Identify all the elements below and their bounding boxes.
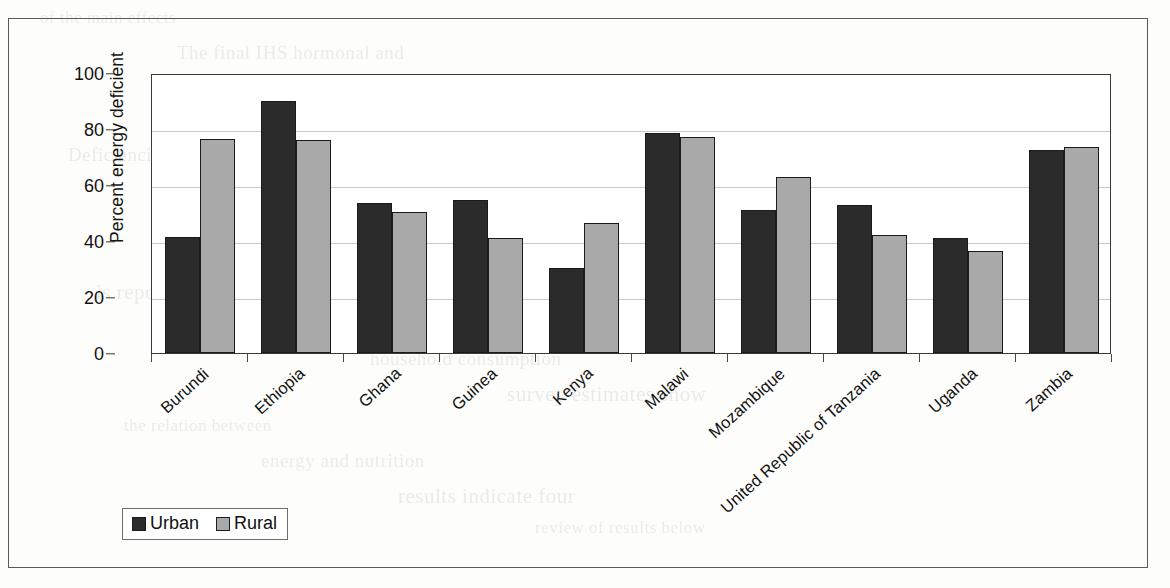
- chart-legend: UrbanRural: [122, 508, 288, 540]
- legend-swatch-rural-icon: [216, 517, 230, 531]
- x-axis-label: Malawi: [641, 364, 692, 413]
- figure-frame: Percent energy deficient 020406080100 Bu…: [8, 18, 1148, 568]
- x-axis-label: Kenya: [549, 364, 597, 410]
- x-axis-labels: BurundiEthiopiaGhanaGuineaKenyaMalawiMoz…: [9, 19, 1149, 569]
- legend-item-urban: Urban: [132, 513, 199, 534]
- x-axis-label: Uganda: [925, 364, 981, 417]
- legend-label: Urban: [150, 513, 199, 534]
- bar-chart: Percent energy deficient 020406080100 Bu…: [9, 19, 1147, 567]
- x-axis-label: Zambia: [1022, 364, 1076, 415]
- x-axis-label: United Republic of Tanzania: [717, 364, 884, 517]
- x-axis-label: Mozambique: [705, 364, 789, 442]
- x-axis-label: Burundi: [157, 364, 213, 417]
- legend-item-rural: Rural: [216, 513, 277, 534]
- x-axis-label: Ethiopia: [251, 364, 309, 419]
- x-axis-label: Guinea: [448, 364, 501, 414]
- legend-label: Rural: [234, 513, 277, 534]
- legend-swatch-urban-icon: [132, 517, 146, 531]
- x-axis-label: Ghana: [355, 364, 405, 412]
